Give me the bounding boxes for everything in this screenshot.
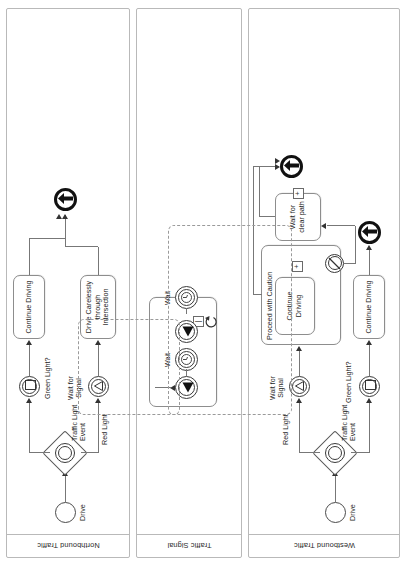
pool-header-traffic-signal: Traffic Signal [137, 534, 241, 557]
flow-green-to-continue-west [369, 343, 370, 376]
flow-gateway-down-h-west [369, 401, 370, 453]
flow-arrow [62, 214, 68, 219]
flow-continue-up-north [29, 238, 65, 239]
group-signal-correlation-upper [78, 319, 180, 415]
flow-green-to-continue-north [29, 343, 30, 376]
flow-gateway-down-north [81, 452, 99, 453]
flow-merge-north [65, 215, 66, 247]
signal-icon-green-light-north [25, 380, 36, 390]
pool-label-traffic-signal: Traffic Signal [167, 542, 211, 551]
flow-gateway-down-west [351, 452, 370, 453]
red-light-label-west: Red Light [282, 414, 291, 445]
task-continue-driving-west[interactable]: Continue Driving [353, 275, 385, 339]
wait-for-clear-path-plus-marker: + [293, 188, 304, 199]
flow-clearpath-up-h [259, 167, 260, 217]
start-event-drive-north-label: Drive [79, 504, 88, 521]
flow-arrow [56, 214, 62, 219]
flow-gateway-up-h-north [29, 401, 30, 453]
pool-header-northbound: Northbound Traffic [7, 534, 129, 557]
bpmn-diagram: Northbound Traffic Drive Traffic Light E… [0, 0, 406, 566]
pool-header-westbound: Westbound Traffic [249, 534, 399, 557]
signal-triangle-icon-west [295, 382, 304, 392]
flow-arrow [26, 340, 32, 345]
flow-arrow [26, 398, 32, 403]
task-continue-driving-north[interactable]: Continue Driving [13, 275, 45, 339]
green-light-label-north: Green Light? [44, 357, 53, 399]
flow-gateway-up-west [299, 452, 320, 453]
flow-arrow [366, 398, 372, 403]
flow-boundary-up-to-wait [327, 225, 355, 226]
flow-careless-up-north [65, 246, 98, 247]
event-gateway-north-inner-ring [58, 446, 72, 460]
start-event-drive-west-label: Drive [349, 504, 358, 521]
flow-boundary-right [355, 226, 356, 264]
pool-label-northbound: Northbound Traffic [37, 542, 99, 551]
flow-arrow [296, 346, 302, 351]
signal-icon-green-light-west [365, 380, 376, 390]
end-event-up-arrow-icon-west-lower [362, 227, 377, 238]
boundary-event-slash-icon [328, 257, 341, 270]
green-light-label-west: Green Light? [345, 361, 354, 403]
flow-clearpath-up [259, 216, 275, 217]
pool-label-westbound: Westbound Traffic [294, 542, 355, 551]
flow-arrow [296, 398, 302, 403]
pool-northbound-traffic: Northbound Traffic Drive Traffic Light E… [6, 8, 130, 558]
start-event-drive-west[interactable] [325, 502, 346, 523]
flow-arrow [366, 340, 372, 345]
end-event-up-arrow-icon-north [58, 194, 73, 205]
red-light-label-north: Red Light [101, 414, 110, 445]
flow-gateway-up-h-west [299, 401, 300, 453]
event-gateway-west-label: Traffic Light Event [341, 401, 358, 441]
flow-gateway-up-north [29, 452, 50, 453]
flow-continue-to-end-west [369, 247, 370, 275]
flow-start-to-gateway-north [65, 474, 66, 502]
flow-start-to-gateway-west [335, 474, 336, 502]
flow-continue-out-north [29, 239, 30, 275]
flow-wait-to-caution-west [299, 348, 300, 376]
flow-arrow [275, 158, 280, 164]
event-gateway-west-inner-ring [328, 446, 342, 460]
flow-careless-out-north [98, 247, 99, 275]
end-event-up-arrow-icon-west-top [284, 161, 299, 172]
flow-arrow [321, 223, 326, 229]
group-signal-correlation-lower [168, 225, 292, 415]
flow-arrow [366, 245, 372, 250]
diagram-canvas: Northbound Traffic Drive Traffic Light E… [0, 0, 406, 566]
start-event-drive-north[interactable] [55, 502, 76, 523]
subprocess-plus-marker: + [292, 261, 303, 272]
